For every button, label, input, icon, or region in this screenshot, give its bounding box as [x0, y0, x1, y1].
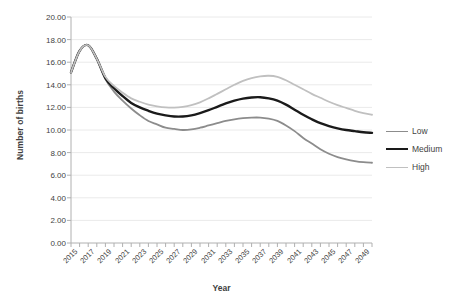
x-axis-title: Year [71, 283, 372, 293]
y-tick-label: 16.00 [46, 58, 66, 67]
y-tick-label: 18.00 [46, 35, 66, 44]
y-tick-label: 12.00 [46, 103, 66, 112]
y-tick-label: 14.00 [46, 80, 66, 89]
plot-svg [71, 17, 372, 243]
x-axis-tick-labels: 2015201720192021202320252027202920312033… [0, 243, 476, 283]
legend-swatch-medium [386, 148, 408, 150]
line-chart: Number of births 0.002.004.006.008.0010.… [0, 0, 476, 302]
y-tick-label: 6.00 [50, 171, 66, 180]
y-tick-label: 8.00 [50, 148, 66, 157]
y-axis-title: Number of births [8, 0, 32, 250]
y-tick-label: 4.00 [50, 193, 66, 202]
y-tick-label: 10.00 [46, 126, 66, 135]
y-tick-label: 2.00 [50, 216, 66, 225]
legend-label: High [412, 162, 429, 172]
y-tick-label: 20.00 [46, 13, 66, 22]
legend-label: Low [412, 126, 428, 136]
plot-area [71, 17, 372, 243]
legend-label: Medium [412, 144, 442, 154]
legend-swatch-low [386, 131, 408, 132]
y-axis-title-label: Number of births [15, 90, 25, 160]
legend-swatch-high [386, 167, 408, 168]
legend-item-high[interactable]: High [386, 158, 472, 176]
legend-item-low[interactable]: Low [386, 122, 472, 140]
legend-item-medium[interactable]: Medium [386, 140, 472, 158]
y-axis-tick-labels: 0.002.004.006.008.0010.0012.0014.0016.00… [30, 0, 66, 250]
chart-legend: LowMediumHigh [386, 122, 472, 176]
